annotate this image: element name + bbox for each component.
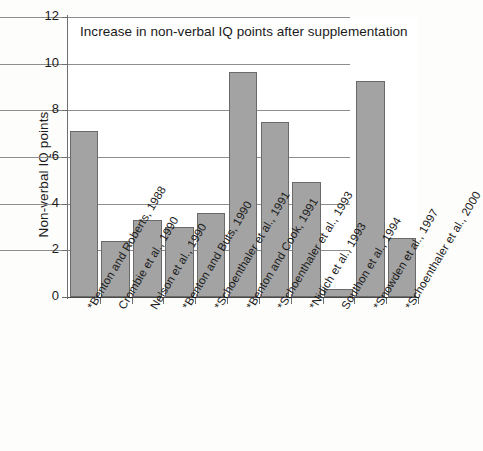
y-tick-label: 4	[19, 195, 59, 210]
y-tick-label: 10	[19, 55, 59, 70]
y-tick-label: 8	[19, 101, 59, 116]
y-tick-label: 6	[19, 148, 59, 163]
bar	[70, 131, 99, 297]
y-tick-label: 12	[19, 8, 59, 23]
y-tick-label: 0	[19, 288, 59, 303]
y-tick-mark	[62, 297, 68, 298]
y-tick-label: 2	[19, 241, 59, 256]
